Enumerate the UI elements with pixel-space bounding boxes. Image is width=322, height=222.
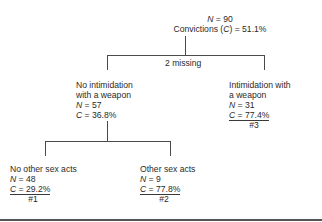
root-stem-line xyxy=(185,36,186,56)
split1-left-drop-line xyxy=(107,55,108,70)
node-no-intimidation: No intimidation with a weapon N = 57 C =… xyxy=(76,80,133,120)
split2-horizontal-line xyxy=(45,141,171,142)
split2-right-drop-line xyxy=(170,141,171,156)
split1-right-drop-line xyxy=(264,55,265,70)
bottom-rule xyxy=(0,219,322,221)
terminal-id-2: #2 xyxy=(140,194,188,204)
split1-horizontal-line xyxy=(107,55,265,56)
root-n: N = 90 xyxy=(140,14,300,24)
node-other-sex-acts: Other sex acts N = 9 C = 77.8% #2 xyxy=(140,164,195,204)
split2-left-drop-line xyxy=(45,141,46,156)
node-no-other-sex-acts: No other sex acts N = 48 C = 29.2% #1 xyxy=(10,164,77,204)
terminal-id-3: #3 xyxy=(229,120,279,130)
root-convictions: Convictions (C) = 51.1% xyxy=(140,24,300,34)
root-node: N = 90 Convictions (C) = 51.1% xyxy=(140,14,300,34)
node-intimidation-weapon: Intimidation with a weapon N = 31 C = 77… xyxy=(229,80,291,130)
split1-missing-note: 2 missing xyxy=(165,58,201,68)
split2-stem-line xyxy=(107,121,108,142)
terminal-id-1: #1 xyxy=(10,194,56,204)
